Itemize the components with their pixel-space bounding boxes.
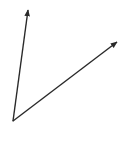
ray-up-arrow	[13, 10, 28, 121]
angle-diagram	[0, 0, 136, 152]
vertex-point	[12, 120, 13, 121]
ray-right-arrow	[13, 42, 117, 121]
